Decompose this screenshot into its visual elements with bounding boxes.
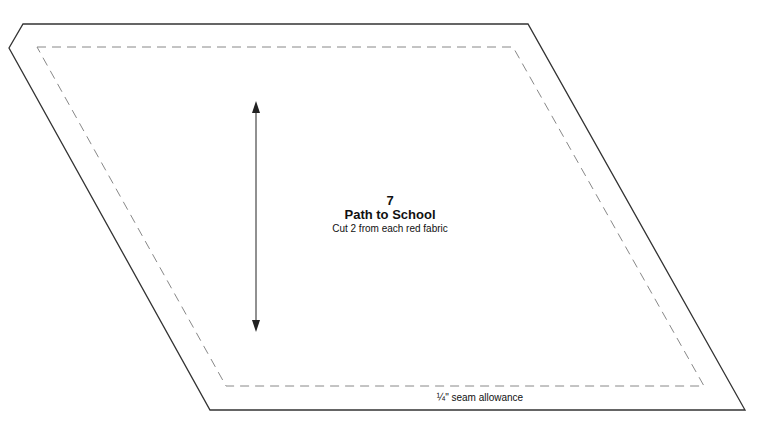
seam-allowance-label: ¼" seam allowance bbox=[380, 392, 580, 403]
grainline-arrow-icon bbox=[252, 101, 260, 332]
piece-number: 7 bbox=[300, 193, 480, 208]
piece-name: Path to School bbox=[290, 207, 490, 222]
cut-instruction: Cut 2 from each red fabric bbox=[290, 223, 490, 234]
